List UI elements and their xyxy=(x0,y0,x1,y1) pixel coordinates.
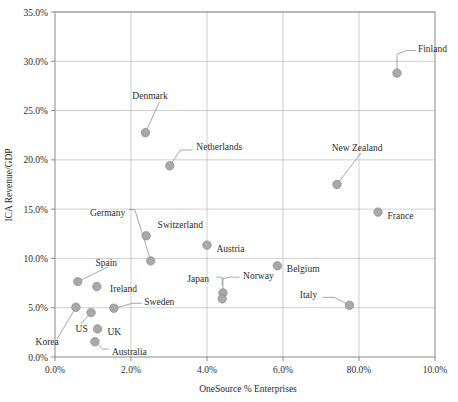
point-label-france: France xyxy=(388,211,414,221)
leader-lines xyxy=(57,50,416,349)
scatter-chart: 0.0%2.0%4.0%6.0%80.0%10.0% 0.0%5.0%10.0%… xyxy=(0,0,458,402)
data-point-switzerland xyxy=(142,232,150,240)
point-label-sweden: Sweden xyxy=(144,297,174,307)
point-label-korea: Korea xyxy=(36,337,60,347)
x-tick-label: 10.0% xyxy=(423,365,448,375)
data-point-belgium xyxy=(273,262,281,270)
point-label-australia: Australia xyxy=(112,347,148,357)
y-tick-label: 15.0% xyxy=(23,205,48,215)
y-tick-label: 10.0% xyxy=(23,254,48,264)
data-point-australia xyxy=(91,338,99,346)
point-label-norway: Norway xyxy=(243,271,274,281)
point-label-germany: Germany xyxy=(90,208,126,218)
point-label-switzerland: Switzerland xyxy=(158,220,204,230)
leader-line-denmark xyxy=(145,102,159,133)
leader-line-japan xyxy=(217,277,223,285)
leader-line-new-zealand xyxy=(337,153,361,185)
x-tick-label: 0.0% xyxy=(45,365,65,375)
data-point-spain xyxy=(74,277,82,285)
point-label-japan: Japan xyxy=(187,274,209,284)
point-label-netherlands: Netherlands xyxy=(196,142,242,152)
point-labels: FinlandDenmarkNetherlandsNew ZealandFran… xyxy=(36,44,448,357)
y-tick-label: 20.0% xyxy=(23,155,48,165)
chart-canvas: 0.0%2.0%4.0%6.0%80.0%10.0% 0.0%5.0%10.0%… xyxy=(0,0,458,402)
point-label-new-zealand: New Zealand xyxy=(332,143,383,153)
point-label-uk: UK xyxy=(107,327,121,337)
data-point-japan xyxy=(218,295,226,303)
point-label-denmark: Denmark xyxy=(132,91,168,101)
x-tick-label: 4.0% xyxy=(197,365,217,375)
x-axis-tick-labels: 0.0%2.0%4.0%6.0%80.0%10.0% xyxy=(45,365,447,375)
data-point-ireland xyxy=(93,282,101,290)
data-point-denmark xyxy=(141,129,149,137)
data-point-netherlands xyxy=(166,162,174,170)
y-axis-tick-labels: 0.0%5.0%10.0%15.0%20.0%25.0%30.0%35.0% xyxy=(23,8,48,363)
point-label-ireland: Ireland xyxy=(110,284,137,294)
point-label-finland: Finland xyxy=(418,44,447,54)
point-label-austria: Austria xyxy=(217,244,246,254)
data-point-germany xyxy=(147,257,155,265)
x-tick-label: 2.0% xyxy=(121,365,141,375)
data-point-uk xyxy=(93,325,101,333)
data-point-us xyxy=(87,308,95,316)
y-axis-title: ICA Revenue/GDP xyxy=(4,148,14,221)
tick-marks xyxy=(51,12,435,361)
x-axis-title: OneSource % Enterprises xyxy=(199,384,297,394)
point-label-us: US xyxy=(76,324,88,334)
data-point-finland xyxy=(393,69,401,77)
leader-line-spain xyxy=(78,267,108,282)
point-label-italy: Italy xyxy=(300,290,318,300)
y-tick-label: 0.0% xyxy=(28,353,48,363)
data-point-korea xyxy=(72,303,80,311)
point-label-belgium: Belgium xyxy=(287,264,320,274)
data-point-austria xyxy=(203,241,211,249)
x-tick-label: 80.0% xyxy=(347,365,372,375)
x-tick-label: 6.0% xyxy=(273,365,293,375)
leader-line-korea xyxy=(57,307,76,339)
y-tick-label: 5.0% xyxy=(28,303,48,313)
point-label-spain: Spain xyxy=(95,258,117,268)
y-tick-label: 30.0% xyxy=(23,57,48,67)
y-tick-label: 25.0% xyxy=(23,106,48,116)
data-point-italy xyxy=(345,301,353,309)
data-point-france xyxy=(374,208,382,216)
data-point-new-zealand xyxy=(333,180,341,188)
y-tick-label: 35.0% xyxy=(23,8,48,18)
data-point-sweden xyxy=(110,304,118,312)
